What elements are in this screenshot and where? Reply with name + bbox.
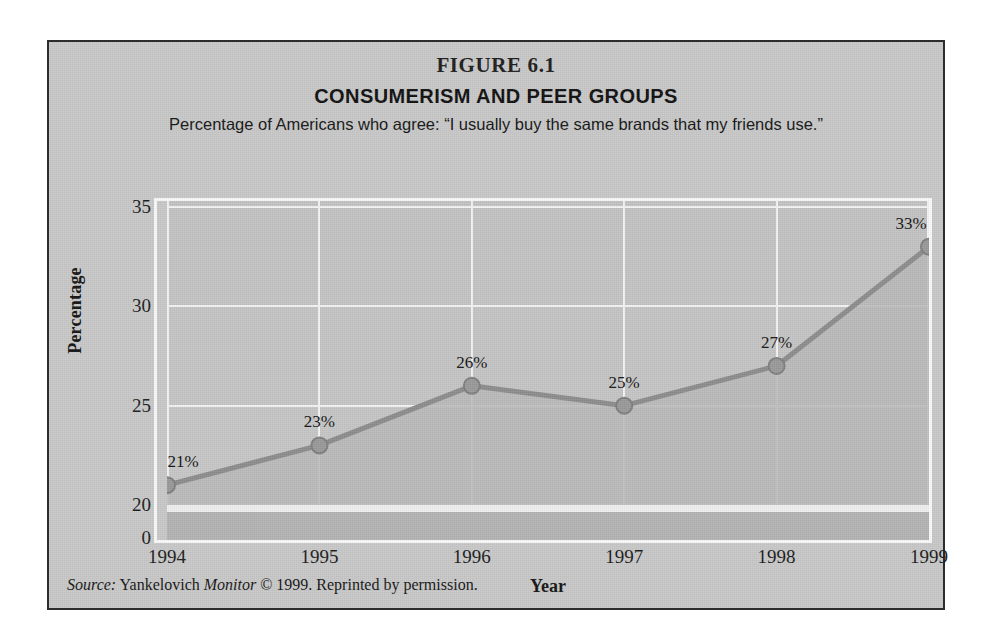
figure-number: FIGURE 6.1 (49, 54, 943, 77)
data-point-label: 27% (761, 333, 792, 353)
source-name-1: Yankelovich (120, 576, 200, 593)
x-tick-label: 1999 (910, 546, 948, 568)
y-tick-label: 35 (105, 196, 151, 218)
data-point-marker[interactable] (769, 358, 785, 374)
figure-subtitle: Percentage of Americans who agree: “I us… (49, 115, 943, 134)
data-point-label: 25% (609, 373, 640, 393)
figure-header: FIGURE 6.1 CONSUMERISM AND PEER GROUPS P… (49, 42, 943, 134)
source-rest: © 1999. Reprinted by permission. (260, 576, 477, 593)
data-point-label: 23% (304, 412, 335, 432)
y-axis-title: Percentage (65, 241, 86, 381)
data-point-marker[interactable] (921, 239, 929, 255)
series-area-fill (167, 247, 929, 505)
x-tick-label: 1995 (300, 546, 338, 568)
x-tick-label: 1998 (758, 546, 796, 568)
chart-region: Percentage 353025200 21%23%26%25%27%33% … (49, 160, 947, 580)
data-point-marker[interactable] (311, 437, 327, 453)
source-note: Source: Yankelovich Monitor © 1999. Repr… (67, 576, 478, 594)
y-tick-label: 25 (105, 395, 151, 417)
data-point-marker[interactable] (167, 477, 175, 493)
data-point-label: 26% (456, 353, 487, 373)
data-point-marker[interactable] (616, 398, 632, 414)
data-point-label: 21% (167, 452, 198, 472)
data-point-marker[interactable] (464, 378, 480, 394)
y-tick-label: 20 (105, 494, 151, 516)
data-point-label: 33% (895, 214, 926, 234)
x-axis-tick-labels: 199419951996199719981999 (167, 546, 929, 576)
x-tick-label: 1997 (605, 546, 643, 568)
y-axis-tick-labels: 353025200 (99, 160, 151, 580)
source-name-2: Monitor (204, 576, 256, 593)
figure-title: CONSUMERISM AND PEER GROUPS (49, 85, 943, 107)
plot-area: 21%23%26%25%27%33% (167, 201, 929, 540)
figure-box: FIGURE 6.1 CONSUMERISM AND PEER GROUPS P… (47, 40, 945, 610)
x-tick-label: 1994 (148, 546, 186, 568)
source-prefix: Source: (67, 576, 116, 593)
x-tick-label: 1996 (453, 546, 491, 568)
y-tick-label: 0 (105, 527, 151, 549)
y-tick-label: 30 (105, 295, 151, 317)
line-series (167, 201, 929, 540)
